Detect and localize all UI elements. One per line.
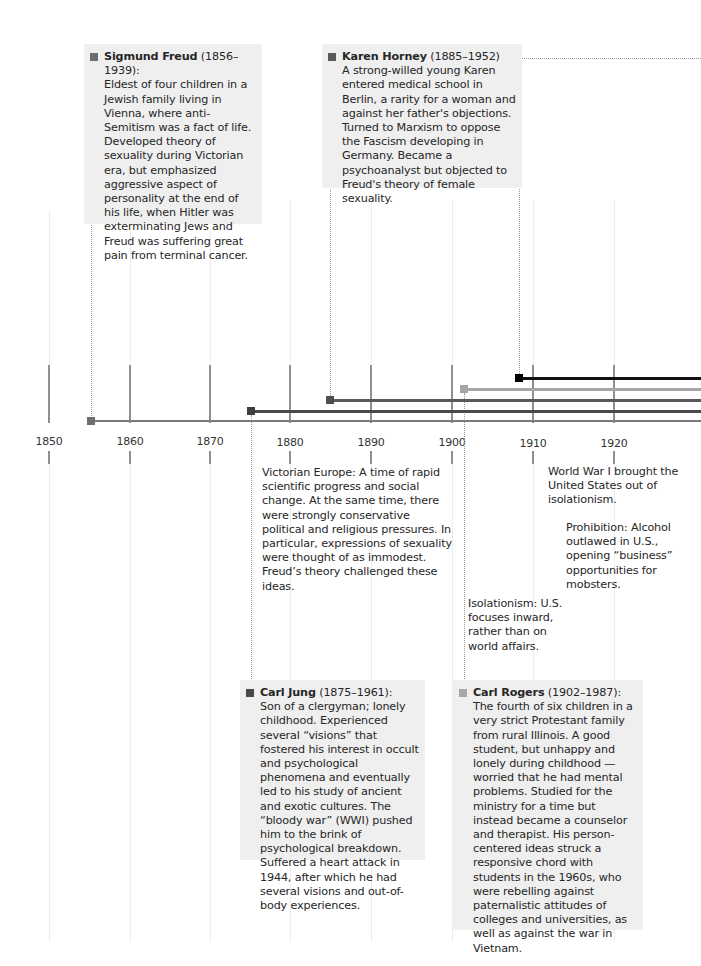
bio-card-jung: Carl Jung (1875–1961): Son of a clergyma…	[240, 680, 425, 860]
tick-upper-1860	[129, 365, 131, 423]
year-label: 1910	[513, 437, 553, 450]
year-label: 1900	[432, 436, 472, 449]
lifeline-marker-rogers	[460, 385, 468, 393]
lifeline-marker-offscreen-figure	[515, 374, 523, 382]
year-label: 1870	[190, 435, 230, 448]
tick-upper-1890	[370, 365, 372, 423]
context-note-prohibition: Prohibition: Alcohol outlawed in U.S., o…	[566, 521, 696, 592]
person-bio: Eldest of four children in a Jewish fami…	[104, 78, 251, 261]
tick-upper-1850	[48, 365, 50, 423]
person-dates: (1885–1952)	[427, 50, 500, 63]
person-bio: Son of a clergyman; lonely childhood. Ex…	[260, 700, 419, 912]
person-name: Carl Rogers	[473, 686, 544, 699]
tick-lower-1890	[370, 451, 372, 464]
tick-upper-1900	[451, 365, 453, 423]
gridline-1890	[371, 200, 372, 365]
gridline-lower-1860	[130, 462, 131, 942]
lifeline-marker-horney	[326, 396, 334, 404]
lifeline-horney	[330, 399, 701, 402]
tick-upper-1870	[209, 365, 211, 423]
person-dates: (1902–1987):	[544, 686, 621, 699]
tick-upper-1920	[613, 365, 615, 423]
person-bio: The fourth of six children in a very str…	[473, 700, 633, 954]
marker-icon	[459, 689, 467, 697]
bio-card-rogers: Carl Rogers (1902–1987): The fourth of s…	[453, 680, 643, 930]
context-note-wwi: World War I brought the United States ou…	[548, 465, 698, 508]
tick-lower-1850	[48, 451, 50, 464]
gridline-lower-1870	[210, 462, 211, 942]
person-dates: (1875–1961):	[316, 686, 393, 699]
gridline-lower-1850	[49, 462, 50, 942]
tick-upper-1880	[289, 365, 291, 423]
year-label: 1850	[29, 435, 69, 448]
tick-lower-1860	[129, 451, 131, 464]
lifeline-marker-jung	[247, 407, 255, 415]
person-name: Sigmund Freud	[104, 50, 197, 63]
context-note-isolationism: Isolationism: U.S. focuses inward, rathe…	[468, 597, 563, 654]
person-bio: A strong-willed young Karen entered medi…	[342, 64, 516, 205]
gridline-1880	[290, 200, 291, 365]
leader-jung	[251, 415, 252, 687]
tick-lower-1910	[532, 451, 534, 464]
lifeline-jung	[251, 410, 701, 413]
gridline-1910	[533, 200, 534, 365]
tick-lower-1900	[451, 451, 453, 464]
leader-offscreen-figure-horizontal	[519, 58, 701, 59]
tick-lower-1880	[289, 451, 291, 464]
leader-rogers	[464, 393, 465, 687]
gridline-1920	[614, 200, 615, 365]
gridline-1850	[49, 210, 50, 365]
year-label: 1890	[351, 436, 391, 449]
gridline-1900	[452, 200, 453, 365]
marker-icon	[90, 53, 98, 61]
bio-card-horney: Karen Horney (1885–1952) A strong-willed…	[322, 44, 522, 188]
lifeline-offscreen-figure	[519, 377, 701, 380]
year-label: 1860	[110, 435, 150, 448]
tick-lower-1920	[613, 451, 615, 464]
lifeline-rogers	[464, 388, 701, 391]
person-name: Carl Jung	[260, 686, 316, 699]
tick-lower-1870	[209, 451, 211, 464]
context-note-victorian: Victorian Europe: A time of rapid scient…	[262, 466, 452, 594]
bio-card-freud: Sigmund Freud (1856–1939): Eldest of fou…	[84, 44, 262, 224]
tick-upper-1910	[532, 365, 534, 423]
person-name: Karen Horney	[342, 50, 427, 63]
year-label: 1920	[594, 437, 634, 450]
lifeline-freud	[91, 420, 701, 422]
year-label: 1880	[270, 436, 310, 449]
lifeline-marker-freud	[87, 417, 95, 425]
marker-icon	[328, 53, 336, 61]
marker-icon	[246, 689, 254, 697]
